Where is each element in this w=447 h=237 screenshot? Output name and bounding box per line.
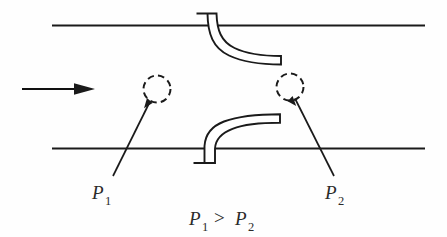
leader-line-p2 [296,100,335,177]
diagram-canvas: P 1 P 2 P 1 > P 2 [0,0,447,237]
pressure-relation: P 1 > P 2 [188,207,254,234]
label-p2: P 2 [324,182,344,208]
upper-probe-tube [197,14,282,65]
dashed-measurement-circle-p2 [277,74,304,101]
label-p2-subscript: 2 [338,194,344,208]
flow-arrow-head [74,83,95,95]
dashed-measurement-circle-p1 [144,76,171,103]
label-p1: P 1 [91,182,111,208]
relation-right-subscript: 2 [248,220,254,234]
label-p2-symbol: P [324,182,337,203]
relation-right-symbol: P [234,208,247,229]
pressure-probe-diagram: P 1 P 2 P 1 > P 2 [0,0,447,237]
label-p1-subscript: 1 [105,194,111,208]
relation-left-subscript: 1 [202,220,208,234]
label-p1-symbol: P [91,182,104,203]
relation-left-symbol: P [188,208,201,229]
leader-line-p1 [113,102,150,177]
relation-operator: > [214,207,225,228]
leader-arrowhead-p2 [288,96,297,106]
lower-probe-tube [194,114,281,163]
